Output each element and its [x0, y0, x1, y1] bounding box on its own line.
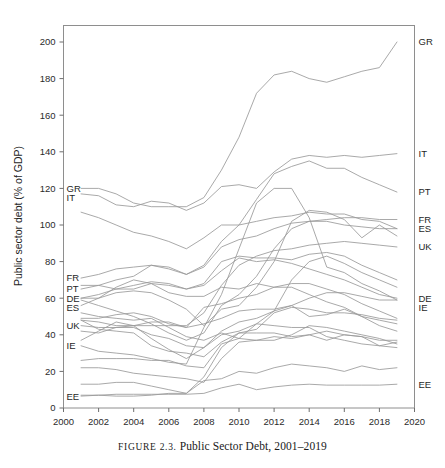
- series-label-pt-right: PT: [419, 186, 431, 197]
- y-tick-label: 120: [40, 183, 56, 194]
- figure-caption-prefix: FIGURE 2.3.: [118, 442, 177, 452]
- public-sector-debt-line-chart: 020406080100120140160180200 200020022004…: [0, 0, 445, 468]
- x-tick-label: 2020: [404, 416, 425, 427]
- y-tick-label: 0: [50, 402, 55, 413]
- y-tick-label: 180: [40, 73, 56, 84]
- y-tick-label: 160: [40, 110, 56, 121]
- y-tick-label: 200: [40, 36, 56, 47]
- series-label-ee-right: EE: [419, 379, 432, 390]
- x-tick-label: 2012: [264, 416, 285, 427]
- series-label-ie-right: IE: [419, 302, 428, 313]
- series-label-uk-left: UK: [67, 320, 81, 331]
- y-tick-label: 20: [45, 366, 56, 377]
- y-tick-label: 80: [45, 256, 56, 267]
- y-tick-label: 40: [45, 329, 56, 340]
- figure-caption: FIGURE 2.3. Public Sector Debt, 2001–201…: [0, 440, 445, 452]
- series-label-uk-right: UK: [419, 241, 433, 252]
- series-label-gr-right: GR: [419, 36, 433, 47]
- series-label-fr-left: FR: [67, 272, 80, 283]
- figure-caption-text: Public Sector Debt, 2001–2019: [180, 440, 327, 452]
- series-label-it-left: IT: [67, 192, 76, 203]
- x-tick-label: 2010: [228, 416, 249, 427]
- y-axis-title: Public sector debt (% of GDP): [12, 146, 24, 286]
- x-tick-label: 2018: [369, 416, 390, 427]
- y-tick-label: 60: [45, 293, 56, 304]
- x-tick-label: 2004: [123, 416, 144, 427]
- x-tick-label: 2000: [53, 416, 74, 427]
- x-tick-label: 2014: [299, 416, 320, 427]
- x-tick-label: 2002: [88, 416, 109, 427]
- y-tick-label: 140: [40, 146, 56, 157]
- x-tick-label: 2016: [334, 416, 355, 427]
- series-label-es-right: ES: [419, 223, 432, 234]
- figure-container: 020406080100120140160180200 200020022004…: [0, 0, 445, 468]
- x-tick-label: 2006: [158, 416, 179, 427]
- series-label-ie-left: IE: [67, 340, 76, 351]
- series-label-ee-left: EE: [67, 391, 80, 402]
- x-tick-label: 2008: [193, 416, 214, 427]
- y-tick-label: 100: [40, 219, 56, 230]
- series-label-it-right: IT: [419, 148, 428, 159]
- series-label-es-left: ES: [67, 302, 80, 313]
